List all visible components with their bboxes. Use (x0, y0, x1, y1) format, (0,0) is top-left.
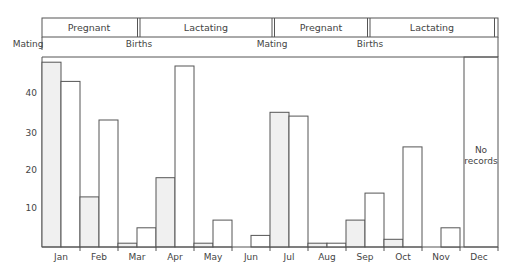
bars (42, 62, 460, 247)
bar-jan-first-half (42, 62, 61, 247)
bar-oct-first-half (384, 239, 403, 247)
events-row: Mating Births Mating Births (13, 37, 498, 57)
phase-band: Pregnant Lactating Pregnant Lactating (42, 18, 498, 37)
phase-label-pregnant-2: Pregnant (300, 22, 343, 33)
y-tick-10: 10 (26, 203, 38, 213)
no-records-line1: No (475, 145, 488, 155)
x-tick-jul: Jul (283, 252, 295, 262)
y-tick-40: 40 (26, 88, 38, 98)
bar-jul-second-half (289, 116, 308, 247)
x-tick-sep: Sep (357, 252, 374, 262)
no-records-line2: records (464, 156, 498, 166)
y-tick-20: 20 (26, 165, 38, 175)
x-tick-aug: Aug (318, 252, 336, 262)
bar-sep-first-half (346, 220, 365, 247)
bar-nov-second-half (441, 228, 460, 247)
bar-jan-second-half (61, 81, 80, 247)
bar-sep-second-half (365, 193, 384, 247)
bar-apr-second-half (175, 66, 194, 247)
bar-apr-first-half (156, 178, 175, 247)
event-births-1: Births (126, 39, 153, 49)
x-tick-nov: Nov (432, 252, 450, 262)
bar-oct-second-half (403, 147, 422, 247)
no-records-box: No records (464, 57, 498, 247)
x-tick-dec: Dec (470, 252, 487, 262)
x-tick-oct: Oct (395, 252, 411, 262)
bar-mar-second-half (137, 228, 156, 247)
phase-label-pregnant-1: Pregnant (68, 22, 111, 33)
bar-feb-first-half (80, 197, 99, 247)
phase-label-lactating-2: Lactating (410, 22, 454, 33)
bar-feb-second-half (99, 120, 118, 247)
bar-jun-second-half (251, 235, 270, 247)
bar-may-second-half (213, 220, 232, 247)
event-mating-1: Mating (13, 39, 44, 49)
event-mating-2: Mating (257, 39, 288, 49)
x-tick-feb: Feb (91, 252, 107, 262)
bar-jul-first-half (270, 112, 289, 247)
seasonal-bar-chart: Pregnant Lactating Pregnant Lactating Ma… (0, 0, 525, 276)
x-axis: JanFebMarAprMayJunJulAugSepOctNovDec (42, 247, 498, 262)
x-tick-mar: Mar (129, 252, 146, 262)
x-tick-may: May (204, 252, 223, 262)
y-tick-30: 30 (26, 128, 38, 138)
x-tick-jun: Jun (243, 252, 258, 262)
phase-label-lactating-1: Lactating (184, 22, 228, 33)
x-tick-apr: Apr (167, 252, 183, 262)
event-births-2: Births (357, 39, 384, 49)
x-tick-jan: Jan (53, 252, 68, 262)
